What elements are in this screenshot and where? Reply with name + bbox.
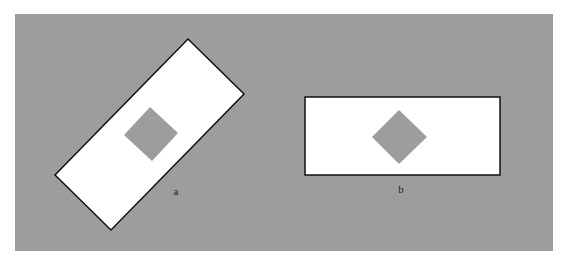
figure-canvas: a b	[0, 0, 568, 266]
label-a: a	[174, 185, 179, 197]
label-b: b	[398, 183, 404, 195]
